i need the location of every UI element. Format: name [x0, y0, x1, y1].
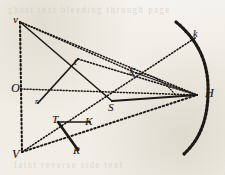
point-label-X: X: [128, 66, 135, 77]
segment-t-to-r: [38, 59, 78, 103]
point-X: [135, 72, 137, 74]
segment-X-to-H: [136, 73, 197, 95]
point-label-r: r: [35, 98, 38, 106]
point-label-V: V: [12, 148, 19, 160]
segment-V-to-k: [22, 38, 195, 152]
segment-axis-v-V: [20, 22, 22, 152]
point-label-S: S: [108, 102, 114, 113]
point-v: [19, 21, 21, 23]
point-label-t: t: [74, 57, 77, 67]
point-label-R: R: [73, 145, 80, 156]
point-label-T: T: [52, 114, 58, 125]
point-t: [77, 58, 79, 60]
arc-layer: [136, 22, 208, 154]
point-label-k: k: [193, 29, 197, 39]
segment-t-to-H: [78, 59, 197, 95]
point-label-O: O: [11, 82, 20, 94]
point-label-K: K: [85, 116, 92, 127]
point-O: [20, 88, 22, 90]
segment-S-to-H: [112, 95, 197, 101]
point-V: [21, 151, 23, 153]
segment-layer: [20, 22, 197, 152]
point-H: [196, 94, 198, 96]
point-label-v: v: [13, 14, 18, 25]
point-label-H: H: [205, 87, 214, 99]
diagram-canvas: [0, 0, 225, 175]
geometric-figure: ghost text bleeding through page faint r…: [0, 0, 225, 175]
segment-v-to-H: [20, 22, 197, 95]
arc-mirror-arc: [176, 22, 208, 154]
